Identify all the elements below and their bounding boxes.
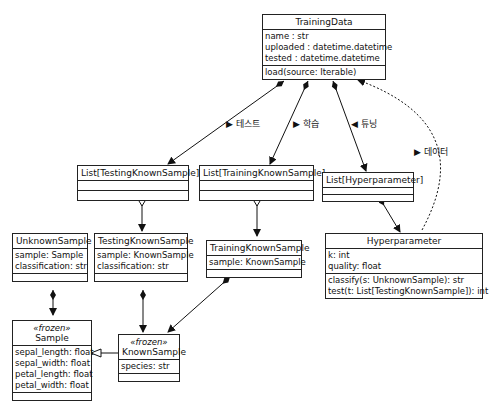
methods: classify(s: UnknownSample): str test(t: … [326, 274, 482, 298]
class-name: List[TrainingKnownSample] [200, 166, 313, 181]
attributes: sample: KnownSample classification: str [95, 249, 187, 274]
class-training-known-sample[interactable]: TrainingKnownSample sample: KnownSample [206, 240, 302, 278]
attribute: sepal_length: float [15, 347, 89, 358]
attributes: k: int quality: float [326, 249, 482, 274]
class-name: «frozen» Sample [13, 321, 91, 346]
stereotype: «frozen» [122, 337, 176, 347]
class-unknown-sample[interactable]: UnknownSample sample: Sample classificat… [12, 233, 88, 282]
attribute: petal_length: float [15, 369, 89, 380]
methods: load(source: Iterable) [263, 66, 385, 79]
class-name: TrainingKnownSample [207, 241, 301, 256]
class-known-sample[interactable]: «frozen» KnownSample species: str [118, 334, 180, 382]
class-name: List[TestingKnownSample] [78, 166, 188, 181]
method: test(t: List[TestingKnownSample]): int [328, 286, 480, 297]
attributes [200, 181, 313, 191]
class-list-hyperparameter[interactable]: List[Hyperparameter] [322, 172, 414, 202]
attributes: sample: Sample classification: str [13, 249, 87, 274]
attribute: petal_width: float [15, 380, 89, 391]
methods [13, 274, 87, 281]
label-test: ▶ 테스트 [226, 117, 260, 130]
class-list-testing-known-sample[interactable]: List[TestingKnownSample] [77, 165, 189, 201]
attribute: sample: KnownSample [209, 257, 299, 268]
attribute: sample: KnownSample [97, 250, 185, 261]
attributes: sepal_length: float sepal_width: float p… [13, 346, 91, 393]
attributes: sample: KnownSample [207, 256, 301, 270]
attributes [323, 188, 413, 195]
label-train: ▶ 학습 [293, 117, 319, 130]
attribute: species: str [121, 361, 177, 372]
class-hyperparameter[interactable]: Hyperparameter k: int quality: float cla… [325, 233, 483, 299]
class-name: List[Hyperparameter] [323, 173, 413, 188]
methods [207, 270, 301, 277]
class-training-data[interactable]: TrainingData name : str uploaded : datet… [262, 14, 386, 80]
methods [78, 191, 188, 200]
methods [200, 191, 313, 200]
class-list-training-known-sample[interactable]: List[TrainingKnownSample] [199, 165, 314, 201]
class-sample[interactable]: «frozen» Sample sepal_length: float sepa… [12, 320, 92, 401]
class-name: TrainingData [263, 15, 385, 30]
methods [13, 393, 91, 400]
attribute: k: int [328, 250, 480, 261]
attribute: classification: str [97, 261, 185, 272]
attributes: name : str uploaded : datetime.datetime … [263, 30, 385, 66]
attribute: sample: Sample [15, 250, 85, 261]
attribute: name : str [265, 31, 383, 42]
class-testing-known-sample[interactable]: TestingKnownSample sample: KnownSample c… [94, 233, 188, 282]
attributes [78, 181, 188, 191]
label-data: ▶ 데이터 [414, 145, 448, 158]
methods [95, 274, 187, 281]
attribute: tested : datetime.datetime [265, 53, 383, 64]
attribute: sepal_width: float [15, 358, 89, 369]
class-name: «frozen» KnownSample [119, 335, 179, 360]
class-name: UnknownSample [13, 234, 87, 249]
method: load(source: Iterable) [265, 67, 383, 78]
attribute: classification: str [15, 261, 85, 272]
class-name: TestingKnownSample [95, 234, 187, 249]
label-tune: ◀ 튜닝 [351, 117, 377, 130]
attributes: species: str [119, 360, 179, 374]
class-title: Sample [35, 333, 69, 343]
stereotype: «frozen» [16, 323, 88, 333]
attribute: quality: float [328, 261, 480, 272]
attribute: uploaded : datetime.datetime [265, 42, 383, 53]
class-title: KnownSample [122, 347, 186, 357]
method: classify(s: UnknownSample): str [328, 275, 480, 286]
methods [323, 195, 413, 201]
class-name: Hyperparameter [326, 234, 482, 249]
methods [119, 374, 179, 381]
